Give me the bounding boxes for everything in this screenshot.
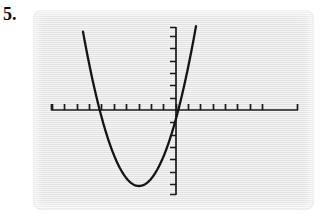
problem-number-label: 5.	[3, 3, 17, 25]
graph-plot-area	[34, 11, 313, 209]
y-axis	[170, 27, 176, 195]
x-axis	[51, 104, 298, 110]
screenshot-root: 5.	[0, 0, 333, 222]
graphing-calculator-screen	[34, 11, 313, 209]
